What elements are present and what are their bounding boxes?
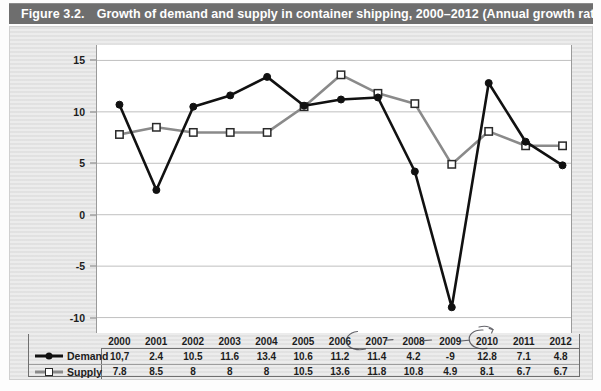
table-cell: 12.8 xyxy=(469,349,506,364)
data-point-demand xyxy=(153,187,160,194)
data-point-supply xyxy=(485,128,492,135)
figure-number: Figure 3.2. xyxy=(21,7,85,21)
legend-item-supply: Supply xyxy=(29,364,101,379)
year-header-cell: 2010 xyxy=(469,334,506,349)
data-point-supply xyxy=(227,129,234,136)
data-point-supply xyxy=(190,129,197,136)
y-axis-tick-mark xyxy=(90,111,96,112)
table-cell: 4.8 xyxy=(542,349,579,364)
year-header-cell: 2001 xyxy=(138,334,175,349)
table-cell: 6.7 xyxy=(542,364,579,379)
year-header-cell: 2012 xyxy=(542,334,579,349)
figure-title-bar: Figure 3.2. Growth of demand and supply … xyxy=(9,3,593,24)
data-point-demand xyxy=(411,168,418,175)
table-cell: 8.5 xyxy=(138,364,175,379)
data-point-demand xyxy=(227,92,234,99)
data-point-supply xyxy=(116,131,123,138)
table-header-row: 2000 2001 2002 2003 2004 2005 2006 2007 … xyxy=(29,334,579,349)
y-axis-tick-mark xyxy=(90,163,96,164)
table-cell: 13.4 xyxy=(248,349,285,364)
year-header-cell: 2003 xyxy=(211,334,248,349)
table-cell: 10.5 xyxy=(285,364,322,379)
supply-line-icon xyxy=(35,366,63,377)
y-axis-tick-label: 10 xyxy=(45,106,85,118)
demand-line-icon xyxy=(35,351,63,362)
year-header-cell: 2009 xyxy=(432,334,469,349)
data-point-demand xyxy=(559,162,566,169)
legend-label-supply: Supply xyxy=(67,366,102,378)
y-axis-tick-label: 0 xyxy=(45,209,85,221)
y-axis-tick-label: -10 xyxy=(45,312,85,324)
data-point-supply xyxy=(153,124,160,131)
table-cell: 8.1 xyxy=(469,364,506,379)
year-header-cell: 2011 xyxy=(505,334,542,349)
table-cell: 8 xyxy=(248,364,285,379)
y-axis-tick-label: -5 xyxy=(45,260,85,272)
data-point-demand xyxy=(116,101,123,108)
year-header-cell: 2004 xyxy=(248,334,285,349)
data-table: 2000 2001 2002 2003 2004 2005 2006 2007 … xyxy=(28,334,580,377)
series-line-supply xyxy=(119,75,562,164)
table-cell: 11.4 xyxy=(358,349,395,364)
year-header-cell: 2002 xyxy=(175,334,212,349)
table-cell: 10.5 xyxy=(175,349,212,364)
table-row: Supply 7.8 8.5 8 8 8 10.5 13.6 11.8 10.8… xyxy=(29,364,579,379)
table-corner-cell xyxy=(29,334,101,349)
data-point-supply xyxy=(559,142,566,149)
table-cell: 11.6 xyxy=(211,349,248,364)
data-point-demand xyxy=(485,80,492,87)
data-point-supply xyxy=(263,129,270,136)
year-header-cell: 2000 xyxy=(101,334,138,349)
year-header-cell: 2008 xyxy=(395,334,432,349)
data-point-demand xyxy=(338,96,345,103)
y-axis-tick-label: 5 xyxy=(45,157,85,169)
data-point-demand xyxy=(301,102,308,109)
figure-body: 151050-5-10 2000 2001 2002 2003 2004 200… xyxy=(9,26,593,380)
data-point-supply xyxy=(337,71,344,78)
y-axis-tick-mark xyxy=(90,214,96,215)
page-title: Growth of demand and supply in container… xyxy=(97,7,593,21)
table-cell: -9 xyxy=(432,349,469,364)
legend-label-demand: Demand xyxy=(67,350,108,362)
table-cell: 8 xyxy=(175,364,212,379)
table-cell: 4.9 xyxy=(432,364,469,379)
legend-item-demand: Demand xyxy=(29,349,101,364)
table-row: Demand 10,7 2.4 10.5 11.6 13.4 10.6 11.2… xyxy=(29,349,579,364)
chart-plot-wrapper: 151050-5-10 xyxy=(87,45,571,333)
data-point-demand xyxy=(190,103,197,110)
data-point-demand xyxy=(522,138,529,145)
table-cell: 7.8 xyxy=(101,364,138,379)
chart-plot-area xyxy=(96,45,571,333)
data-point-supply xyxy=(448,161,455,168)
figure-container: Figure 3.2. Growth of demand and supply … xyxy=(0,0,601,391)
data-point-demand xyxy=(448,304,455,311)
table-cell: 8 xyxy=(211,364,248,379)
table-cell: 7.1 xyxy=(505,349,542,364)
table-cell: 10.8 xyxy=(395,364,432,379)
table-cell: 13.6 xyxy=(322,364,359,379)
y-axis-tick-label: 15 xyxy=(45,54,85,66)
year-header-cell: 2005 xyxy=(285,334,322,349)
table-cell: 4.2 xyxy=(395,349,432,364)
table-cell: 10.6 xyxy=(285,349,322,364)
data-point-demand xyxy=(374,94,381,101)
year-header-cell: 2007 xyxy=(358,334,395,349)
table-cell: 6.7 xyxy=(505,364,542,379)
table-cell: 11.2 xyxy=(322,349,359,364)
y-axis-tick-mark xyxy=(90,317,96,318)
y-axis-tick-mark xyxy=(90,60,96,61)
chart-svg xyxy=(97,45,572,333)
data-point-supply xyxy=(411,100,418,107)
table-cell: 11.8 xyxy=(358,364,395,379)
year-header-cell: 2006 xyxy=(322,334,359,349)
y-axis-tick-mark xyxy=(90,266,96,267)
data-point-demand xyxy=(264,73,271,80)
table-cell: 2.4 xyxy=(138,349,175,364)
